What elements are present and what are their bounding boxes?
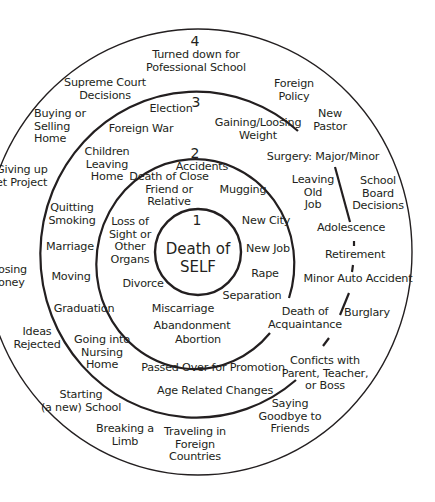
ring-4-item: Ideas Rejected (13, 326, 60, 351)
ring-number-3: 3 (192, 95, 201, 109)
ring-3-dash (352, 265, 353, 272)
ring-4-item: osing oney (0, 264, 27, 289)
ring-3-item: Moving (51, 271, 90, 284)
ring-4-item: Foreign Policy (274, 78, 314, 103)
ring-3-item: Children Leaving Home (85, 146, 130, 184)
ring-4-item: Burglary (344, 307, 390, 320)
ring-3-item: Passed Over for Promotion (141, 362, 285, 375)
ring-3-item: Leaving Old Job (292, 174, 334, 212)
ring-number-1: 1 (193, 213, 202, 227)
ring-3-item: Marriage (46, 241, 94, 254)
ring-3-dash (335, 167, 350, 222)
ring-2-item: Loss of Sight or Other Organs (109, 216, 151, 266)
ring-2-item: Death of Close Friend or Relative (129, 171, 208, 209)
center-label: Death of SELF (166, 240, 231, 276)
ring-2-item: Rape (251, 268, 279, 281)
ring-4-item: Breaking a Limb (96, 423, 154, 448)
ring-3-item: Gaining/Loosing Weight (215, 117, 302, 142)
ring-2-item: New City (242, 215, 290, 228)
ring-3-item: Surgery: Major/Minor (267, 151, 379, 164)
ring-2-item: Mugging (220, 184, 267, 197)
ring-2-item: Divorce (122, 278, 163, 291)
ring-2-item: Separation (223, 290, 282, 303)
ring-3-item: Age Related Changes (157, 385, 273, 398)
ring-4-item: Giving up et Project (0, 164, 48, 189)
ring-2-item: Miscarriage (152, 303, 214, 316)
ring-4-item: Buying or Selling Home (34, 108, 86, 146)
ring-3-dash (323, 338, 329, 346)
ring-4-item: School Board Decisions (352, 175, 404, 213)
ring-3-item: Election (149, 103, 192, 116)
ring-3-item: Going into Nursing Home (74, 334, 130, 372)
ring-4-item: Turned down for Pofessional School (146, 49, 246, 74)
stress-circles-diagram: 4 3 2 1 Death of SELF Accidents Death of… (0, 0, 435, 502)
ring-4-item: Saying Goodbye to Friends (259, 398, 322, 436)
ring-2-item: Abortion (175, 334, 221, 347)
ring-3-item: Death of Acquaintance (268, 306, 342, 331)
ring-4-item: Supreme Court Decisions (64, 77, 146, 102)
ring-2-item: New Job (246, 243, 290, 256)
ring-4-item: Traveling in Foreign Countries (164, 426, 226, 464)
ring-4-item: Conficts with Parent, Teacher, or Boss (282, 355, 369, 393)
ring-4-item: Starting (a new) School (41, 389, 121, 414)
ring-number-4: 4 (191, 34, 200, 48)
ring-4-item: New Pastor (313, 108, 347, 133)
ring-2-item: Abandonment (154, 320, 231, 333)
ring-number-2: 2 (191, 146, 200, 160)
ring-3-item: Retirement (325, 249, 385, 262)
ring-3-item: Quitting Smoking (48, 202, 95, 227)
ring-3-item: Foreign War (109, 123, 174, 136)
ring-3-item: Minor Auto Accident (304, 273, 413, 286)
ring-3-item: Graduation (54, 303, 115, 316)
ring-3-item: Adolescence (317, 222, 385, 235)
